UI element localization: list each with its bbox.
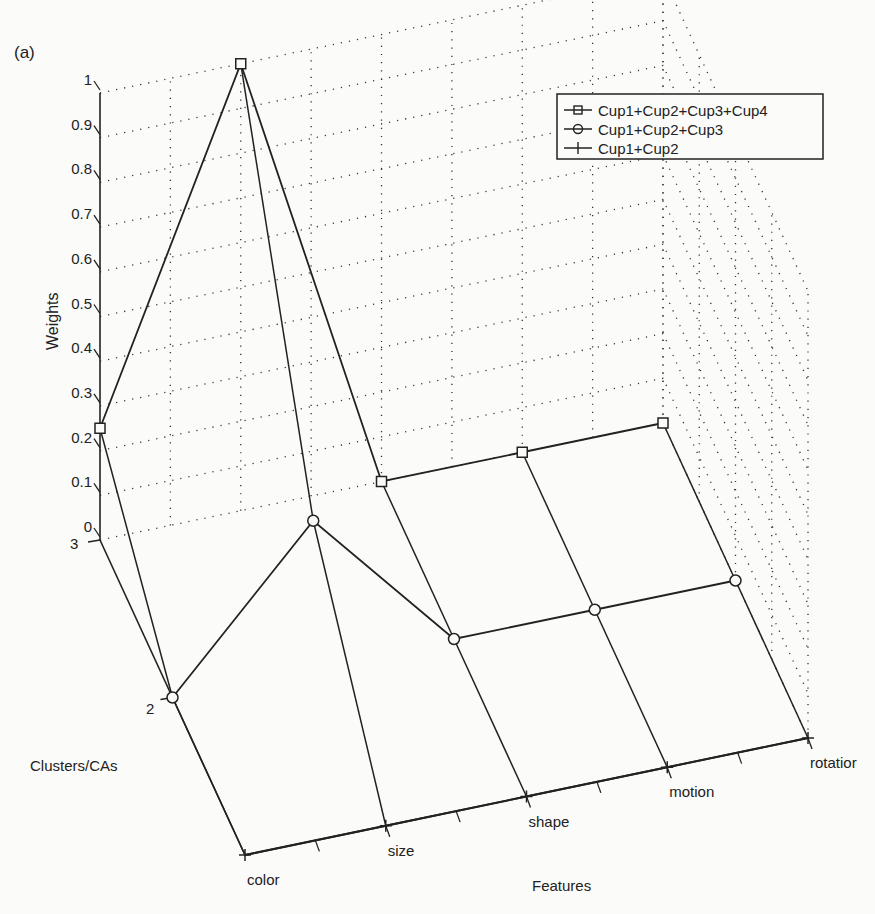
series-markers xyxy=(95,59,814,861)
features-axis-label: Features xyxy=(532,877,591,894)
weight-tick-label: 0.6 xyxy=(71,250,92,267)
feature-tick-label: rotatior xyxy=(810,754,857,771)
circle-marker-icon xyxy=(308,515,319,526)
weight-tick-label: 0.1 xyxy=(71,473,92,490)
circle-marker-icon xyxy=(167,692,178,703)
svg-text:Cup1+Cup2+Cup3+Cup4: Cup1+Cup2+Cup3+Cup4 xyxy=(598,102,768,119)
feature-tick-labels: colorsizeshapemotionrotatior xyxy=(247,754,857,888)
square-marker-icon xyxy=(236,59,246,69)
circle-marker-icon xyxy=(730,575,741,586)
weight-tick-label: 0.5 xyxy=(71,295,92,312)
panel-label: (a) xyxy=(14,43,35,62)
legend: Cup1+Cup2+Cup3+Cup4 Cup1+Cup2+Cup3 Cup1+… xyxy=(557,94,823,159)
feature-tick-label: color xyxy=(247,871,280,888)
svg-text:Cup1+Cup2+Cup3: Cup1+Cup2+Cup3 xyxy=(598,121,723,138)
square-marker-icon xyxy=(517,447,527,457)
weight-tick-label: 0.3 xyxy=(71,384,92,401)
weight-tick-label: 0.4 xyxy=(71,339,92,356)
square-marker-icon xyxy=(377,477,387,487)
weight-tick-label: 0.7 xyxy=(71,205,92,222)
weight-tick-label: 0.8 xyxy=(71,160,92,177)
axis-ticks xyxy=(88,81,812,851)
series-lines xyxy=(100,64,808,855)
cluster-tick-2: 2 xyxy=(146,700,154,717)
circle-marker-icon xyxy=(449,634,460,645)
weight-tick-labels: 00.10.20.30.40.50.60.70.80.91 xyxy=(71,71,92,535)
clusters-axis-label: Clusters/CAs xyxy=(30,757,118,774)
weight-tick-label: 0.2 xyxy=(71,429,92,446)
series-line xyxy=(173,521,736,698)
circle-marker-icon xyxy=(589,604,600,615)
feature-tick-label: motion xyxy=(669,783,714,800)
weights-axis-label: Weights xyxy=(44,292,61,350)
weight-tick-label: 0.9 xyxy=(71,116,92,133)
square-marker-icon xyxy=(658,418,668,428)
waterfall-chart: (a) 00.10.20.30.40.50.60.70.80.91 Weight… xyxy=(0,0,875,914)
axes xyxy=(100,93,808,855)
weight-tick-label: 0 xyxy=(84,518,92,535)
svg-text:Cup1+Cup2: Cup1+Cup2 xyxy=(598,140,678,157)
feature-tick-label: size xyxy=(388,842,415,859)
cluster-tick-3: 3 xyxy=(70,535,78,552)
weight-tick-label: 1 xyxy=(84,71,92,88)
feature-tick-label: shape xyxy=(529,813,570,830)
square-marker-icon xyxy=(95,423,105,433)
